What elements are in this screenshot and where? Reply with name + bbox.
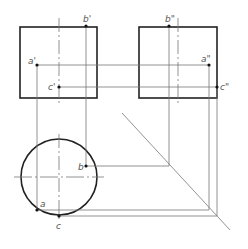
points bbox=[35, 24, 218, 217]
labels: b' a' c' b" a" c" b a c bbox=[28, 14, 229, 231]
point-b-dprime bbox=[167, 24, 170, 27]
label-b: b bbox=[78, 162, 84, 172]
point-c bbox=[57, 214, 60, 217]
top-view bbox=[14, 134, 104, 222]
label-c: c bbox=[56, 221, 61, 231]
point-c-dprime bbox=[215, 85, 218, 88]
label-a-dprime: a" bbox=[201, 54, 211, 64]
point-b bbox=[84, 164, 87, 167]
label-a: a bbox=[40, 199, 46, 209]
label-b-prime: b' bbox=[83, 14, 91, 24]
point-a bbox=[35, 208, 38, 211]
miter-line bbox=[122, 113, 230, 230]
label-c-prime: c' bbox=[48, 82, 55, 92]
label-c-dprime: c" bbox=[220, 82, 229, 92]
label-b-dprime: b" bbox=[165, 14, 175, 24]
point-c-prime bbox=[57, 85, 60, 88]
point-b-prime bbox=[84, 24, 87, 27]
projection-diagram: b' a' c' b" a" c" b a c bbox=[0, 0, 248, 249]
label-a-prime: a' bbox=[28, 56, 36, 66]
